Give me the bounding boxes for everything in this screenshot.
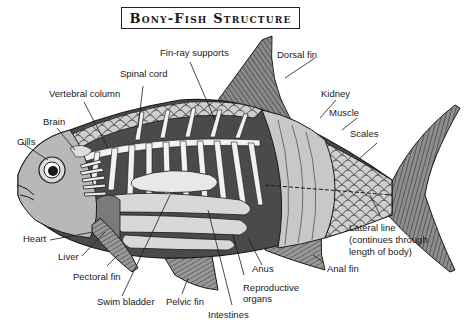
- label-brain: Brain: [43, 116, 65, 127]
- label-liver: Liver: [58, 251, 79, 262]
- label-fin-ray-supports: Fin-ray supports: [160, 47, 229, 58]
- diagram-title: Bony-Fish Structure: [129, 11, 291, 26]
- intestines-shape: [111, 193, 250, 250]
- label-gills: Gills: [17, 136, 35, 147]
- label-lateral-line-line1: Lateral line: [349, 222, 395, 233]
- fish-illustration: [0, 0, 474, 326]
- label-vertebral-column: Vertebral column: [49, 88, 120, 99]
- label-reproductive-organs-line1: Reproductive: [243, 282, 299, 293]
- label-spinal-cord: Spinal cord: [120, 68, 168, 79]
- label-pectoral-fin: Pectoral fin: [73, 271, 121, 282]
- bony-fish-diagram: Bony-Fish Structure Fin-ray supports Dor…: [0, 0, 474, 326]
- label-lateral-line-line3: length of body): [349, 246, 412, 257]
- label-scales: Scales: [350, 128, 379, 139]
- label-kidney: Kidney: [321, 88, 350, 99]
- label-heart: Heart: [23, 233, 46, 244]
- label-muscle: Muscle: [329, 107, 359, 118]
- title-box: Bony-Fish Structure: [121, 7, 300, 29]
- label-swim-bladder: Swim bladder: [97, 296, 155, 307]
- label-lateral-line-line2: (continues through: [349, 234, 428, 245]
- label-reproductive-organs-line2: organs: [243, 293, 272, 304]
- label-anus: Anus: [252, 263, 274, 274]
- label-pelvic-fin: Pelvic fin: [166, 296, 204, 307]
- label-dorsal-fin: Dorsal fin: [277, 49, 317, 60]
- label-anal-fin: Anal fin: [327, 263, 359, 274]
- label-intestines: Intestines: [208, 309, 249, 320]
